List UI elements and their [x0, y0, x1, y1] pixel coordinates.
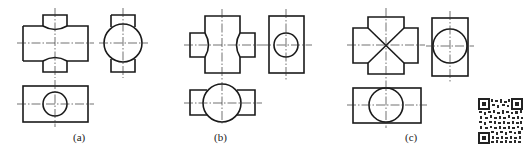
panel-b-label: (b)	[214, 131, 227, 144]
panel-a: (a)	[17, 8, 148, 144]
panel-c-top-view	[347, 82, 427, 128]
panel-a-side-view	[99, 8, 148, 78]
panel-c: (c)	[347, 8, 474, 144]
panel-b-front-view	[184, 9, 262, 80]
panel-a-label: (a)	[73, 131, 86, 144]
panel-c-side-view	[426, 11, 474, 83]
drawing-canvas: (a) (b)	[0, 0, 527, 152]
panel-b: (b)	[184, 9, 312, 144]
panel-a-top-view	[17, 80, 94, 127]
qr-code[interactable]	[478, 98, 524, 145]
panel-c-front-view	[347, 8, 425, 82]
panel-b-side-view	[262, 9, 312, 80]
panel-b-top-view	[184, 82, 262, 125]
panel-a-front-view	[17, 8, 94, 78]
panel-c-label: (c)	[405, 131, 418, 144]
